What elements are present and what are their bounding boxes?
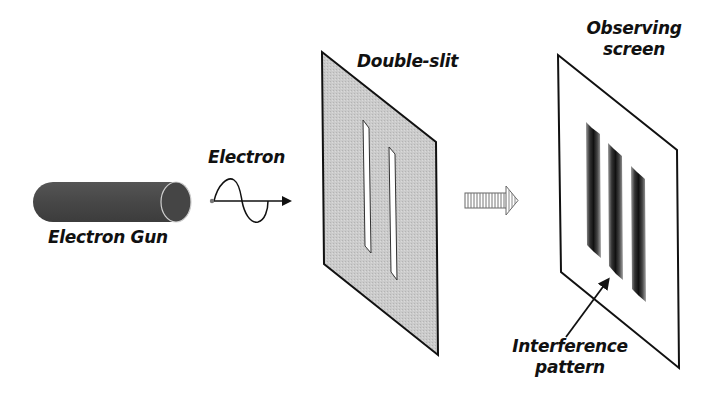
observing-screen-panel — [558, 55, 679, 368]
double-slit-diagram: Electron Electron Gun Double-slit Observ… — [0, 0, 720, 403]
double-slit-panel — [322, 52, 438, 355]
interference-fringe-1 — [586, 122, 601, 258]
double-slit-label: Double-slit — [357, 51, 458, 71]
observing-screen-label-line2: screen — [584, 39, 684, 59]
electron-gun — [33, 182, 191, 222]
electron-gun-label: Electron Gun — [48, 227, 168, 247]
electron-wave-icon — [210, 179, 290, 222]
electron-label: Electron — [208, 147, 285, 167]
interference-label-line2: pattern — [500, 357, 640, 377]
observing-screen-label-line1: Observing — [584, 18, 684, 38]
interference-label-line1: Interference — [500, 336, 640, 356]
interference-fringe-2 — [608, 143, 623, 280]
interference-fringe-3 — [631, 166, 646, 302]
propagation-arrow-icon — [465, 186, 518, 215]
